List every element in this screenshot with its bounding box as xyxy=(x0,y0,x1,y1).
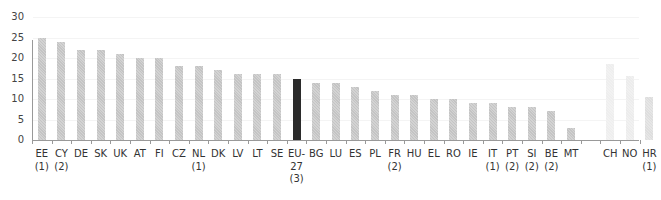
bar-hr xyxy=(645,97,653,140)
bar-lv xyxy=(234,74,242,140)
x-tick xyxy=(189,140,190,144)
x-label-mt: MT xyxy=(558,148,584,161)
x-tick xyxy=(463,140,464,144)
bar-bg xyxy=(312,83,320,140)
bar-sk xyxy=(97,50,105,140)
bar-hu xyxy=(410,95,418,140)
bar-ee xyxy=(38,38,46,141)
bar-el xyxy=(430,99,438,140)
bar-ro xyxy=(449,99,457,140)
x-tick xyxy=(385,140,386,144)
x-tick xyxy=(91,140,92,144)
bar-cz xyxy=(175,66,183,140)
x-tick xyxy=(52,140,53,144)
x-tick xyxy=(169,140,170,144)
x-label-hr: HR(1) xyxy=(636,148,661,173)
gridline xyxy=(33,17,639,18)
bar-se xyxy=(273,74,281,140)
y-axis-line xyxy=(32,40,33,140)
bar-pt xyxy=(508,107,516,140)
bar-no xyxy=(626,76,634,140)
x-tick xyxy=(287,140,288,144)
category-code: HR xyxy=(636,148,661,161)
footnote-marker: 27 xyxy=(284,161,310,174)
y-tick-label: 30 xyxy=(0,12,24,22)
x-tick xyxy=(424,140,425,144)
x-tick xyxy=(600,140,601,144)
bar-it xyxy=(489,103,497,140)
bar-lu xyxy=(332,83,340,140)
bar-es xyxy=(351,87,359,140)
bar-si xyxy=(528,107,536,140)
bar-lt xyxy=(253,74,261,140)
x-tick xyxy=(248,140,249,144)
x-tick xyxy=(581,140,582,144)
x-tick xyxy=(32,140,33,144)
x-tick xyxy=(326,140,327,144)
bar-uk xyxy=(116,54,124,140)
x-tick xyxy=(208,140,209,144)
x-tick xyxy=(228,140,229,144)
footnote-marker: (3) xyxy=(284,173,310,186)
bar-cy xyxy=(57,42,65,140)
footnote-marker: (2) xyxy=(48,161,74,174)
footnote-marker: (1) xyxy=(186,161,212,174)
y-tick-label: 20 xyxy=(0,53,24,63)
bar-mt xyxy=(567,128,575,140)
y-tick-label: 25 xyxy=(0,33,24,43)
x-tick xyxy=(150,140,151,144)
x-tick xyxy=(404,140,405,144)
x-tick xyxy=(346,140,347,144)
x-tick xyxy=(640,140,641,144)
bar-pl xyxy=(371,91,379,140)
x-tick xyxy=(522,140,523,144)
y-tick-label: 5 xyxy=(0,115,24,125)
footnote-marker: (1) xyxy=(636,161,661,174)
footnote-marker: (2) xyxy=(382,161,408,174)
bar-fr xyxy=(391,95,399,140)
bar-at xyxy=(136,58,144,140)
gridline xyxy=(33,38,639,39)
x-tick xyxy=(306,140,307,144)
x-tick xyxy=(561,140,562,144)
x-axis-line xyxy=(32,140,639,141)
category-code: MT xyxy=(558,148,584,161)
y-tick-label: 0 xyxy=(0,135,24,145)
x-tick xyxy=(267,140,268,144)
bar-nl xyxy=(195,66,203,140)
bar-ch xyxy=(606,64,614,140)
y-tick-label: 10 xyxy=(0,94,24,104)
bar-ie xyxy=(469,103,477,140)
x-tick xyxy=(620,140,621,144)
x-tick xyxy=(71,140,72,144)
x-tick xyxy=(483,140,484,144)
bar-eu-27 xyxy=(293,79,301,141)
x-tick xyxy=(542,140,543,144)
bar-de xyxy=(77,50,85,140)
x-tick xyxy=(365,140,366,144)
x-tick xyxy=(110,140,111,144)
y-tick-label: 15 xyxy=(0,74,24,84)
bar-dk xyxy=(214,70,222,140)
x-tick xyxy=(444,140,445,144)
x-tick xyxy=(502,140,503,144)
footnote-marker: (2) xyxy=(538,161,564,174)
bar-be xyxy=(547,111,555,140)
bar-fi xyxy=(155,58,163,140)
x-tick xyxy=(130,140,131,144)
